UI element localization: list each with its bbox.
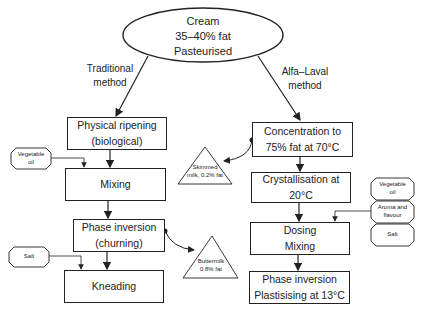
step-concentration: Concentration to 75% fat at 70°C	[252, 122, 353, 157]
input-vegetable-oil-right: Vegetable oil	[371, 178, 414, 200]
butter-process-flow-diagram: Cream 35–40% fat Pasteurised Traditional…	[0, 0, 423, 316]
input-salt-right: Salt	[371, 224, 414, 246]
step-phase-inversion-churning: Phase inversion (churning)	[73, 219, 165, 252]
source-label: Cream 35–40% fat Pasteurised	[143, 14, 263, 59]
step-crystallisation: Crystallisation at 20°C	[251, 172, 351, 203]
step-phase-inversion-plastisising: Phase inversion Plastisising at 13°C	[249, 271, 350, 304]
alfa-laval-method-label: Alfa–Laval method	[272, 65, 338, 92]
step-physical-ripening: Physical ripening (biological)	[67, 117, 167, 150]
input-vegetable-oil-left: Vegetable oil	[11, 148, 51, 169]
input-salt-left: Salt	[9, 247, 49, 267]
traditional-method-label: Traditional method	[80, 62, 140, 89]
output-buttermilk: Buttermilk 0.8% fat	[186, 258, 236, 274]
step-kneading: Kneading	[64, 270, 164, 303]
step-mixing: Mixing	[65, 168, 166, 201]
output-skimmed-milk: Skimmed milk, 0.2% fat	[180, 164, 230, 180]
input-aroma-flavour: Aroma and flavour	[371, 201, 414, 223]
step-dosing-mixing: Dosing Mixing	[250, 222, 350, 255]
